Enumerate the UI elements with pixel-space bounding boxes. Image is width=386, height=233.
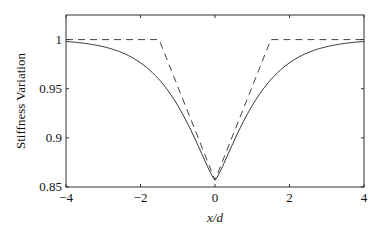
y-tick-label: 0.9 — [46, 130, 62, 145]
x-tick-label: 4 — [361, 190, 368, 205]
series-smooth — [66, 42, 364, 181]
y-tick-label: 0.85 — [39, 179, 62, 194]
y-axis-label: Stiffness Variation — [13, 53, 28, 149]
stiffness-chart: −4−20240.850.90.951 x/d Stiffness Variat… — [0, 0, 386, 233]
x-tick-label: 0 — [212, 190, 219, 205]
x-tick-label: 2 — [286, 190, 293, 205]
plot-lines — [66, 40, 364, 181]
x-tick-label: −2 — [134, 190, 148, 205]
y-tick-label: 0.95 — [39, 81, 62, 96]
x-axis-label: x/d — [206, 210, 223, 225]
series-piecewise-linear — [66, 40, 364, 181]
y-tick-label: 1 — [56, 32, 63, 47]
axes-box — [66, 15, 364, 187]
